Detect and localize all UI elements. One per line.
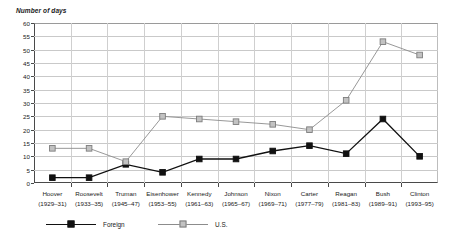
x-axis-category-label: Johnson(1965–67): [222, 189, 250, 208]
x-axis-category-label: Clinton(1993–95): [406, 189, 434, 208]
series-line: [52, 42, 419, 162]
open-square-marker: [160, 114, 166, 120]
plot-area: 051015202530354045505560: [34, 23, 438, 183]
y-axis-tick-label: 55: [8, 33, 30, 40]
legend-label-us: U.S.: [215, 221, 227, 228]
open-square-marker: [380, 39, 386, 45]
filled-square-marker: [233, 156, 239, 162]
legend-label-foreign: Foreign: [103, 221, 125, 228]
y-axis-tick-label: 15: [8, 140, 30, 147]
filled-square-icon: [68, 221, 75, 228]
filled-square-marker: [417, 154, 423, 160]
category-name: Eisenhower: [146, 189, 178, 199]
x-axis-category-label: Nixon(1969–71): [259, 189, 287, 208]
open-square-marker: [233, 119, 239, 125]
x-axis-tick-mark: [107, 183, 108, 187]
category-name: Johnson: [222, 189, 250, 199]
filled-square-marker: [270, 148, 276, 154]
y-axis-title: Number of days: [16, 7, 67, 14]
y-axis-tick-label: 20: [8, 126, 30, 133]
y-axis-tick-label: 50: [8, 46, 30, 53]
category-years: (1945–47): [112, 199, 140, 209]
x-axis-category-label: Carter(1977–79): [295, 189, 323, 208]
x-axis-category-label: Hoover(1929–31): [38, 189, 66, 208]
x-axis-category-label: Eisenhower(1953–55): [146, 189, 178, 208]
category-years: (1977–79): [295, 199, 323, 209]
y-axis-tick-label: 40: [8, 73, 30, 80]
series-line: [52, 119, 419, 178]
filled-square-marker: [380, 116, 386, 122]
legend-swatch-us: [158, 219, 208, 229]
filled-square-marker: [307, 143, 313, 149]
category-years: (1981–83): [332, 199, 360, 209]
x-axis-tick-mark: [291, 183, 292, 187]
category-years: (1993–95): [406, 199, 434, 209]
open-square-marker: [417, 52, 423, 58]
y-axis-tick-label: 5: [8, 166, 30, 173]
open-square-marker: [343, 98, 349, 104]
category-years: (1953–55): [146, 199, 178, 209]
category-name: Hoover: [38, 189, 66, 199]
filled-square-marker: [86, 175, 92, 181]
filled-square-marker: [343, 151, 349, 157]
y-axis-tick-label: 35: [8, 86, 30, 93]
legend-entry-us: U.S.: [158, 219, 227, 229]
category-years: (1969–71): [259, 199, 287, 209]
data-series-layer: [34, 23, 438, 183]
open-square-marker: [50, 146, 56, 152]
category-years: (1933–35): [75, 199, 103, 209]
series-u-s: [50, 39, 423, 165]
x-axis-tick-mark: [365, 183, 366, 187]
category-name: Carter: [295, 189, 323, 199]
open-square-marker: [270, 122, 276, 128]
y-axis-tick-label: 60: [8, 20, 30, 27]
x-axis-tick-mark: [144, 183, 145, 187]
chart-legend: Foreign U.S.: [0, 219, 449, 239]
y-axis-tick-label: 0: [8, 180, 30, 187]
open-square-marker: [123, 159, 129, 165]
x-axis-category-label: Reagan(1981–83): [332, 189, 360, 208]
x-axis-tick-mark: [328, 183, 329, 187]
y-axis-tick-label: 45: [8, 60, 30, 67]
filled-square-marker: [160, 170, 166, 176]
x-axis-tick-mark: [71, 183, 72, 187]
x-axis-category-label: Kennedy(1961–63): [185, 189, 213, 208]
category-name: Truman: [112, 189, 140, 199]
chart-container: Number of days 051015202530354045505560 …: [0, 0, 449, 244]
y-axis-tick-label: 10: [8, 153, 30, 160]
x-axis-tick-mark: [181, 183, 182, 187]
category-name: Kennedy: [185, 189, 213, 199]
y-axis-tick-mark: [31, 183, 34, 184]
x-axis-tick-mark: [254, 183, 255, 187]
y-axis-tick-label: 30: [8, 100, 30, 107]
open-square-marker: [307, 127, 313, 133]
filled-square-marker: [50, 175, 56, 181]
open-square-marker: [86, 146, 92, 152]
open-square-marker: [196, 116, 202, 122]
y-axis-tick-label: 25: [8, 113, 30, 120]
category-name: Bush: [369, 189, 397, 199]
x-axis-category-label: Roosevelt(1933–35): [75, 189, 103, 208]
legend-entry-foreign: Foreign: [46, 219, 125, 229]
x-axis-category-labels: Hoover(1929–31)Roosevelt(1933–35)Truman(…: [34, 189, 438, 213]
category-years: (1961–63): [185, 199, 213, 209]
x-axis-tick-mark: [401, 183, 402, 187]
category-years: (1929–31): [38, 199, 66, 209]
x-axis-category-label: Bush(1989–91): [369, 189, 397, 208]
category-name: Clinton: [406, 189, 434, 199]
category-name: Roosevelt: [75, 189, 103, 199]
filled-square-marker: [196, 156, 202, 162]
category-name: Nixon: [259, 189, 287, 199]
x-axis-tick-mark: [218, 183, 219, 187]
category-name: Reagan: [332, 189, 360, 199]
open-square-icon: [180, 221, 187, 228]
x-axis-category-label: Truman(1945–47): [112, 189, 140, 208]
category-years: (1989–91): [369, 199, 397, 209]
legend-swatch-foreign: [46, 219, 96, 229]
category-years: (1965–67): [222, 199, 250, 209]
series-foreign: [50, 116, 423, 180]
